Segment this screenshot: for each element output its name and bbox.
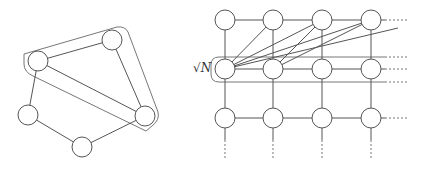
grid-node [361,108,381,128]
grid-node [263,10,283,30]
graph-node [72,137,92,157]
diagram-canvas: √N [0,0,423,169]
graph-edge [82,116,145,147]
graph-edge [38,40,112,61]
grid-node [215,59,235,79]
grid-node [263,108,283,128]
grid-node [312,59,332,79]
graph-node [102,30,122,50]
graph-edge [112,40,145,116]
sqrt-n-label: √N [193,61,212,75]
graph-node [28,51,48,71]
grid-graph: √N [193,10,407,158]
graph-node [18,105,38,125]
graph-edge [38,61,145,116]
left-graph [18,27,158,157]
grid-node [361,10,381,30]
grid-node [215,108,235,128]
grid-node [312,10,332,30]
grid-node [361,59,381,79]
grid-node [215,10,235,30]
graph-node [135,106,155,126]
grid-node [312,108,332,128]
grid-node [263,59,283,79]
